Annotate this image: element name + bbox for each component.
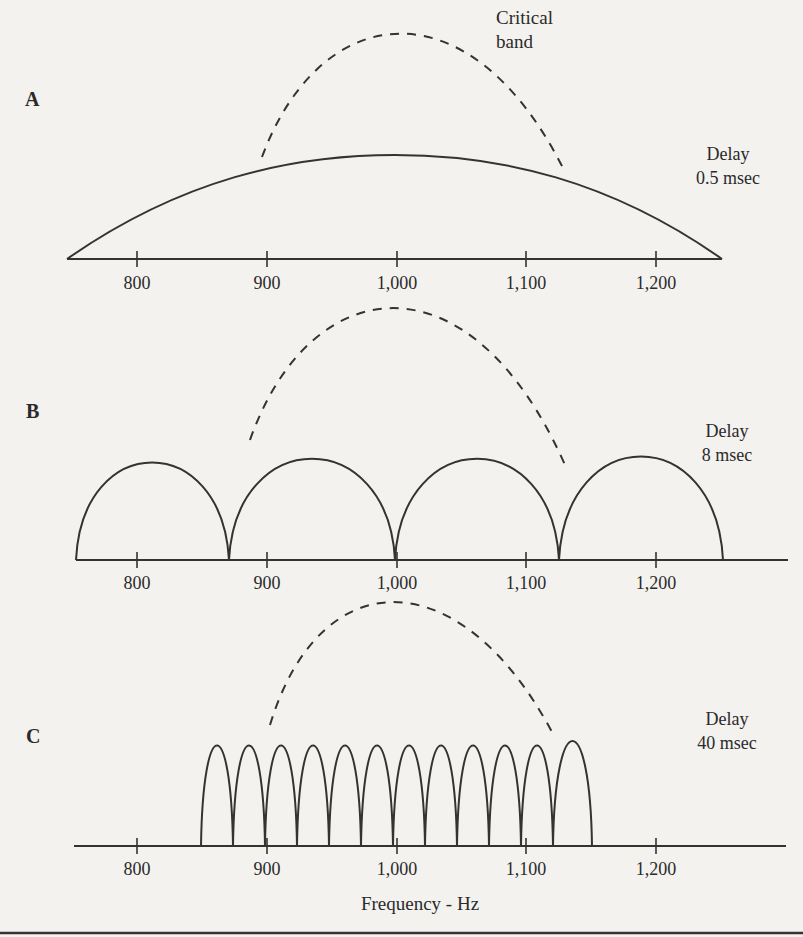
- spectrum-c: [201, 741, 592, 846]
- delay-label-b-line2: 8 msec: [702, 443, 752, 467]
- tick-label-a-1100: 1,100: [506, 273, 547, 294]
- panel-c-graphic: [74, 602, 786, 854]
- delay-label-a: Delay 0.5 msec: [696, 142, 760, 190]
- tick-label-a-1200: 1,200: [636, 273, 677, 294]
- panel-letter-c: C: [26, 725, 40, 748]
- comb-filter-figure: Critical band A B C Delay 0.5 msec Delay…: [0, 0, 803, 937]
- panel-letter-b: B: [26, 400, 39, 423]
- tick-label-a-1000: 1,000: [377, 273, 418, 294]
- critical-band-arc-c: [270, 602, 552, 732]
- tick-label-c-1000: 1,000: [377, 859, 418, 880]
- critical-band-label-line2: band: [496, 30, 553, 54]
- panel-letter-a: A: [25, 88, 39, 111]
- delay-label-a-line2: 0.5 msec: [696, 166, 760, 190]
- tick-label-b-1100: 1,100: [506, 573, 547, 594]
- spectrum-a: [67, 155, 722, 259]
- delay-label-a-line1: Delay: [696, 142, 760, 166]
- tick-label-c-1100: 1,100: [506, 859, 547, 880]
- tick-label-c-900: 900: [254, 859, 281, 880]
- tick-label-c-1200: 1,200: [636, 859, 677, 880]
- critical-band-arc-b: [250, 308, 565, 465]
- x-axis-label: Frequency - Hz: [361, 893, 479, 915]
- panel-a-graphic: [67, 34, 722, 267]
- delay-label-b-line1: Delay: [702, 419, 752, 443]
- delay-label-c-line2: 40 msec: [697, 731, 756, 755]
- critical-band-label-line1: Critical: [496, 6, 553, 30]
- delay-label-c: Delay 40 msec: [697, 707, 756, 755]
- critical-band-label: Critical band: [496, 6, 553, 54]
- delay-label-b: Delay 8 msec: [702, 419, 752, 467]
- tick-label-b-1000: 1,000: [377, 573, 418, 594]
- tick-label-c-800: 800: [124, 859, 151, 880]
- tick-label-a-800: 800: [124, 273, 151, 294]
- critical-band-arc-a: [262, 34, 565, 172]
- tick-label-b-900: 900: [254, 573, 281, 594]
- delay-label-c-line1: Delay: [697, 707, 756, 731]
- spectrum-b: [76, 457, 723, 561]
- panel-b-graphic: [76, 308, 788, 568]
- tick-label-b-1200: 1,200: [636, 573, 677, 594]
- tick-label-b-800: 800: [124, 573, 151, 594]
- tick-label-a-900: 900: [254, 273, 281, 294]
- figure-graphics: [0, 0, 803, 937]
